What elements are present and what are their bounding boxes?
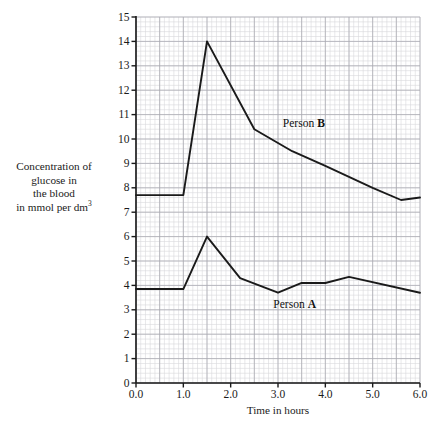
y-axis-tick-label: 11 (108, 109, 130, 120)
series-annotation-letter: A (308, 298, 316, 311)
y-axis-label-superscript: 3 (88, 199, 92, 208)
y-axis-tick-label: 0 (108, 378, 130, 389)
y-axis-label: Concentration of glucose in the blood in… (2, 160, 106, 214)
y-axis-tick-label: 5 (108, 256, 130, 267)
x-axis-tick-label: 1.0 (166, 389, 200, 400)
y-axis-tick-label: 10 (108, 134, 130, 145)
series-annotation-person-a: Person A (273, 298, 316, 311)
y-axis-tick-label: 7 (108, 207, 130, 218)
x-axis-tick-label: 2.0 (214, 389, 248, 400)
y-axis-tick-label: 9 (108, 158, 130, 169)
y-axis-tick-label: 4 (108, 280, 130, 291)
x-axis-tick-label: 6.0 (403, 389, 434, 400)
y-axis-label-line-2: glucose in (2, 174, 106, 188)
y-axis-label-line-4: in mmol per dm3 (2, 201, 106, 215)
x-axis-tick-label: 4.0 (308, 389, 342, 400)
x-axis-tick-label: 5.0 (356, 389, 390, 400)
series-annotation-text: Person (273, 298, 307, 311)
series-annotation-letter: B (317, 117, 325, 130)
x-axis-tick-label: 0.0 (119, 389, 153, 400)
y-axis-tick-label: 15 (108, 12, 130, 23)
y-axis-tick-label: 8 (108, 182, 130, 193)
y-axis-tick-label: 1 (108, 353, 130, 364)
y-axis-tick-label: 12 (108, 85, 130, 96)
series-annotation-person-b: Person B (283, 117, 325, 130)
series-annotation-text: Person (283, 117, 317, 130)
y-axis-label-line-1: Concentration of (2, 160, 106, 174)
x-axis-label: Time in hours (136, 404, 420, 416)
y-axis-label-line-4-text: in mmol per dm (16, 201, 88, 213)
y-axis-tick-label: 2 (108, 329, 130, 340)
y-axis-tick-label: 6 (108, 231, 130, 242)
glucose-concentration-chart: Concentration of glucose in the blood in… (0, 0, 434, 428)
y-axis-tick-label: 14 (108, 36, 130, 47)
y-axis-tick-label: 13 (108, 60, 130, 71)
y-axis-tick-label: 3 (108, 304, 130, 315)
x-axis-tick-label: 3.0 (261, 389, 295, 400)
